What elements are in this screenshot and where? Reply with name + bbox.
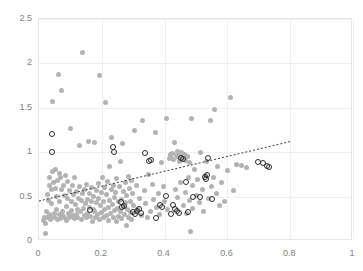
data-point-open <box>138 210 144 216</box>
data-point-filled <box>113 190 118 195</box>
data-point-filled <box>222 199 227 204</box>
x-axis-tick-label: 0.6 <box>220 248 233 258</box>
data-point-filled <box>105 179 110 184</box>
data-point-filled <box>219 180 224 185</box>
data-point-filled <box>172 140 177 145</box>
data-point-filled <box>201 209 206 214</box>
data-point-open <box>111 149 117 155</box>
data-point-filled <box>74 189 79 194</box>
data-point-filled <box>73 202 78 207</box>
data-point-filled <box>211 175 216 180</box>
data-point-filled <box>79 217 84 222</box>
data-point-filled <box>228 95 233 100</box>
data-point-open <box>266 164 272 170</box>
data-point-open <box>49 131 55 137</box>
data-point-filled <box>215 164 220 169</box>
data-point-filled <box>103 100 108 105</box>
data-point-filled <box>190 183 195 188</box>
data-point-filled <box>137 196 142 201</box>
y-axis-tick-label: 1.5 <box>2 102 32 112</box>
data-point-filled <box>57 199 62 204</box>
data-point-filled <box>80 50 85 55</box>
y-axis-tick-label: 0.5 <box>2 191 32 201</box>
data-point-filled <box>118 159 123 164</box>
data-point-filled <box>72 175 77 180</box>
data-point-filled <box>56 72 61 77</box>
data-point-open <box>148 157 154 163</box>
data-point-filled <box>50 99 55 104</box>
data-point-filled <box>111 183 116 188</box>
data-point-filled <box>68 126 73 131</box>
data-point-filled <box>183 190 188 195</box>
data-point-filled <box>61 183 66 188</box>
data-point-filled <box>190 206 195 211</box>
data-point-filled <box>86 139 91 144</box>
x-axis-tick-label: 0.8 <box>283 248 296 258</box>
data-point-filled <box>102 185 107 190</box>
data-point-filled <box>77 143 82 148</box>
gridline-vertical <box>290 19 291 239</box>
data-point-filled <box>164 116 169 121</box>
data-point-filled <box>124 223 129 228</box>
data-point-filled <box>129 217 134 222</box>
data-point-filled <box>54 194 59 199</box>
data-point-filled <box>188 229 193 234</box>
data-point-filled <box>99 190 104 195</box>
data-point-filled <box>63 173 68 178</box>
data-point-open <box>176 210 182 216</box>
data-point-filled <box>81 206 86 211</box>
gridline-horizontal <box>39 108 351 109</box>
x-axis-tick-label: 1 <box>349 248 354 258</box>
data-point-filled <box>189 116 194 121</box>
data-point-filled <box>156 191 161 196</box>
data-point-filled <box>54 207 59 212</box>
data-point-filled <box>197 200 202 205</box>
data-point-filled <box>127 186 132 191</box>
y-axis-tick-label: 1 <box>2 146 32 156</box>
data-point-filled <box>192 167 197 172</box>
data-point-filled <box>195 177 200 182</box>
plot-area <box>38 18 352 240</box>
gridline-vertical <box>353 19 354 239</box>
y-axis-tick-label: 2.5 <box>2 13 32 23</box>
data-point-filled <box>187 160 192 165</box>
data-point-filled <box>150 182 155 187</box>
gridline-horizontal <box>39 152 351 153</box>
data-point-open <box>190 194 196 200</box>
data-point-open <box>183 179 189 185</box>
data-point-filled <box>59 88 64 93</box>
data-point-filled <box>92 140 97 145</box>
data-point-open <box>204 172 210 178</box>
gridline-vertical <box>227 19 228 239</box>
data-point-open <box>197 194 203 200</box>
data-point-filled <box>142 188 147 193</box>
data-point-open <box>163 193 169 199</box>
data-point-filled <box>181 203 186 208</box>
data-point-filled <box>89 199 94 204</box>
data-point-filled <box>101 199 106 204</box>
data-point-filled <box>109 135 114 140</box>
data-point-filled <box>70 183 75 188</box>
data-point-open <box>168 211 174 217</box>
data-point-filled <box>153 130 158 135</box>
data-point-filled <box>175 195 180 200</box>
data-point-filled <box>140 118 145 123</box>
data-point-open <box>205 155 211 161</box>
data-point-filled <box>145 215 150 220</box>
data-point-filled <box>114 176 119 181</box>
data-point-filled <box>143 201 148 206</box>
data-point-filled <box>114 219 119 224</box>
data-point-filled <box>217 203 222 208</box>
data-point-filled <box>208 118 213 123</box>
data-point-filled <box>120 141 125 146</box>
data-point-filled <box>231 188 236 193</box>
data-point-filled <box>107 164 112 169</box>
data-point-filled <box>198 150 203 155</box>
data-point-filled <box>132 128 137 133</box>
x-axis-tick-label: 0 <box>35 248 40 258</box>
x-axis-tick-label: 0.4 <box>157 248 170 258</box>
data-point-open <box>49 149 55 155</box>
data-point-filled <box>200 187 205 192</box>
data-point-open <box>142 150 148 156</box>
data-point-filled <box>110 202 115 207</box>
